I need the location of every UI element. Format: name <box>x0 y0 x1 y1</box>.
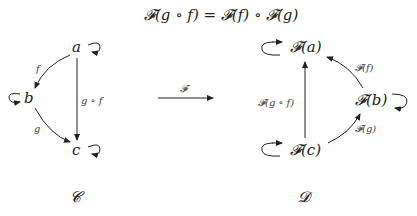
arrow-f <box>35 55 70 88</box>
loop-b <box>9 94 20 103</box>
object-b: b <box>24 91 34 106</box>
label-Fgf: 𝓕(g ∘ f) <box>258 98 294 108</box>
category-D-name: 𝓓 <box>298 190 310 205</box>
object-Fc: 𝓕(c) <box>290 143 321 158</box>
label-gf: g ∘ f <box>81 96 102 106</box>
label-g: g <box>34 124 40 134</box>
category-C-name: 𝓒 <box>70 190 81 205</box>
object-a: a <box>72 40 81 55</box>
object-Fa: 𝓕(a) <box>290 40 322 55</box>
label-Ff: 𝓕(f) <box>355 63 374 73</box>
object-Fb: 𝓕(b) <box>355 93 387 108</box>
loop-c <box>88 145 100 155</box>
functor-composition-equation: 𝓕(g ∘ f) = 𝓕(f) ∘ 𝓕(g) <box>144 8 298 23</box>
loop-Fa <box>262 42 280 55</box>
loop-Fc <box>262 143 280 156</box>
loop-Fb <box>392 94 407 108</box>
object-c: c <box>72 143 80 158</box>
label-f: f <box>36 64 40 74</box>
loop-a <box>88 43 100 53</box>
functor-label: 𝓕 <box>180 84 187 94</box>
label-Fg: 𝓕(g) <box>355 124 376 134</box>
